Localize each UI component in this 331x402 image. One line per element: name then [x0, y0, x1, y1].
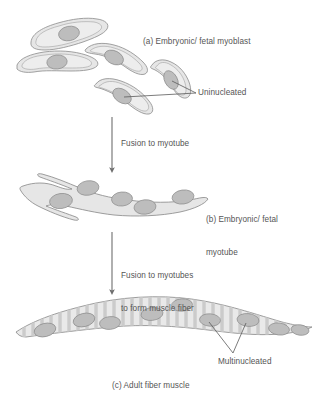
myogenesis-diagram	[0, 0, 331, 402]
panel-b-label-line2: myotube	[206, 247, 278, 258]
myoblast-cell	[151, 60, 191, 98]
muscle-development-figure: (a) Embryonic/ fetal myoblast Uninucleat…	[0, 0, 331, 402]
fusion-to-myotubes-line2: to form muscle fiber	[121, 303, 194, 314]
fusion-to-myotubes-label: Fusion to myotubes to form muscle fiber	[121, 248, 194, 336]
myoblast-cell	[94, 79, 152, 115]
panel-b-label: (b) Embryonic/ fetal myotube	[206, 192, 278, 280]
panel-a-label: (a) Embryonic/ fetal myoblast	[143, 36, 250, 47]
panel-c-caption: (c) Adult fiber muscle	[112, 380, 190, 391]
fusion-to-myotubes-line1: Fusion to myotubes	[121, 270, 194, 281]
multinucleated-label: Multinucleated	[218, 356, 272, 367]
panel-b-label-line1: (b) Embryonic/ fetal	[206, 214, 278, 225]
myoblast-group	[17, 18, 196, 114]
myotube-group	[20, 174, 208, 221]
uninucleated-label: Uninucleated	[198, 87, 246, 98]
fusion-to-myotube-label: Fusion to myotube	[121, 138, 189, 149]
myoblast-cell	[17, 51, 98, 72]
